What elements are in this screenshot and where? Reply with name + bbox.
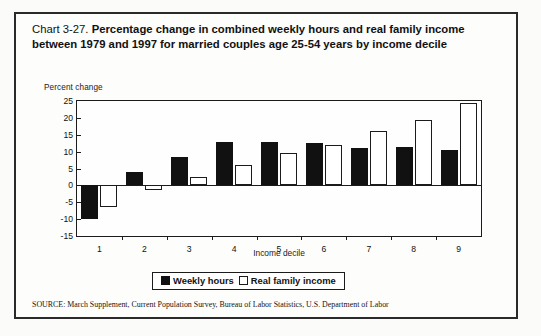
y-axis-tick-label: 10 <box>63 147 73 157</box>
y-axis-tick-label: 0 <box>68 180 73 190</box>
bar-income-decile-7 <box>370 131 387 185</box>
legend-label-weekly-hours: Weekly hours <box>173 275 234 286</box>
y-axis-tick-label: -15 <box>61 231 73 241</box>
bar-income-decile-6 <box>325 145 342 186</box>
bar-group: 3 <box>167 101 212 236</box>
bar-group: 6 <box>301 101 346 236</box>
x-axis-tick-mark <box>167 236 168 240</box>
x-axis-tick-mark <box>391 236 392 240</box>
y-axis-tick-label: 5 <box>68 164 73 174</box>
legend-swatch-icon-real-family-income <box>239 276 248 285</box>
legend-item-weekly-hours: Weekly hours <box>161 275 234 286</box>
bar-income-decile-8 <box>415 120 432 186</box>
legend-swatch-icon-weekly-hours <box>161 276 170 285</box>
x-axis-tick-mark <box>257 236 258 240</box>
x-axis-tick-mark <box>212 236 213 240</box>
legend-item-real-family-income: Real family income <box>239 275 336 286</box>
x-axis-tick-mark <box>436 236 437 240</box>
bar-group: 7 <box>346 101 391 236</box>
bar-income-decile-3 <box>190 177 207 185</box>
bar-group: 9 <box>436 101 481 236</box>
legend-label-real-family-income: Real family income <box>251 275 336 286</box>
chart-title-text: Percentage change in combined weekly hou… <box>32 23 465 50</box>
bar-hours-decile-8 <box>396 147 413 186</box>
x-axis-label: Income decile <box>76 248 482 258</box>
chart-figure: Chart 3-27. Percentage change in combine… <box>0 0 541 336</box>
plot-area: 2520151050-5-10-15 123456789 <box>76 100 482 237</box>
y-axis-tick-label: -10 <box>61 214 73 224</box>
y-axis-tick-label: -5 <box>65 197 73 207</box>
chart-legend: Weekly hours Real family income <box>152 272 345 290</box>
bar-hours-decile-3 <box>171 157 188 186</box>
bar-hours-decile-6 <box>306 143 323 185</box>
source-note: SOURCE: March Supplement, Current Popula… <box>32 300 389 309</box>
y-axis-tick-label: 15 <box>63 130 73 140</box>
bar-group: 4 <box>212 101 257 236</box>
bar-hours-decile-2 <box>126 172 143 186</box>
bar-income-decile-5 <box>280 153 297 185</box>
bar-group: 2 <box>122 101 167 236</box>
bar-hours-decile-7 <box>351 148 368 185</box>
bar-income-decile-4 <box>235 165 252 185</box>
bar-income-decile-2 <box>145 185 162 190</box>
y-axis-tick-label: 25 <box>63 96 73 106</box>
bar-group: 8 <box>391 101 436 236</box>
bar-hours-decile-9 <box>441 150 458 185</box>
page-title: Chart 3-27. Percentage change in combine… <box>32 22 502 51</box>
bar-income-decile-1 <box>100 185 117 207</box>
y-axis-label: Percent change <box>44 83 103 92</box>
bar-hours-decile-1 <box>81 185 98 219</box>
bar-group: 5 <box>257 101 302 236</box>
bar-series-container: 123456789 <box>77 101 481 236</box>
bar-hours-decile-5 <box>261 142 278 186</box>
bar-group: 1 <box>77 101 122 236</box>
y-axis-tick-label: 20 <box>63 113 73 123</box>
bar-income-decile-9 <box>460 103 477 186</box>
chart-number: Chart 3-27. <box>32 23 89 35</box>
x-axis-tick-mark <box>122 236 123 240</box>
bar-hours-decile-4 <box>216 142 233 186</box>
x-axis-tick-mark <box>346 236 347 240</box>
x-axis-tick-mark <box>301 236 302 240</box>
